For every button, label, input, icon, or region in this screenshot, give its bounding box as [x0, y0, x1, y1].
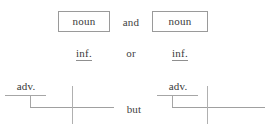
sentence-diagram-canvas: noun and noun inf. or inf. adv. but adv. — [0, 0, 272, 128]
adverb-rule-right — [157, 95, 198, 96]
conjunction-but: but — [118, 102, 150, 116]
adverb-label-left: adv. — [7, 80, 45, 93]
adverb-rule-left — [5, 95, 46, 96]
adverb-connector-right — [172, 95, 173, 107]
infinitive-right-text: inf. — [172, 47, 188, 61]
infinitive-left-text: inf. — [76, 47, 92, 61]
divider-left — [72, 86, 73, 124]
adverb-label-right: adv. — [159, 80, 197, 93]
noun-box-left: noun — [58, 11, 110, 32]
noun-box-right: noun — [152, 11, 208, 32]
conjunction-or: or — [112, 46, 150, 60]
infinitive-right: inf. — [152, 46, 208, 60]
conjunction-and: and — [112, 15, 150, 29]
infinitive-left: inf. — [58, 46, 110, 60]
adverb-connector-left — [30, 95, 31, 107]
divider-right — [207, 86, 208, 124]
baseline-right — [172, 107, 265, 108]
